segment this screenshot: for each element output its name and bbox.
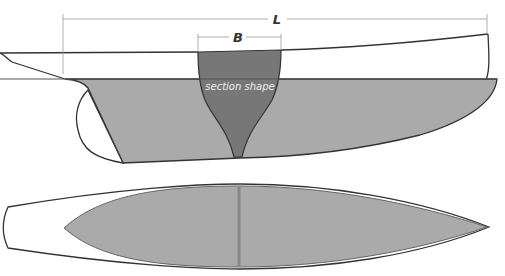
underwater-hull bbox=[65, 79, 497, 163]
section-shape-label: section shape bbox=[205, 81, 274, 92]
length-label: L bbox=[273, 12, 281, 27]
sheer-line bbox=[0, 34, 488, 53]
plan-view bbox=[4, 184, 490, 269]
hull-diagram: L B section shape bbox=[0, 0, 505, 276]
waterplane-area bbox=[64, 186, 487, 267]
beam-label: B bbox=[233, 30, 243, 45]
profile-view: L B section shape bbox=[0, 12, 497, 163]
stern-overhang bbox=[0, 53, 65, 79]
bow-stem bbox=[486, 34, 489, 80]
